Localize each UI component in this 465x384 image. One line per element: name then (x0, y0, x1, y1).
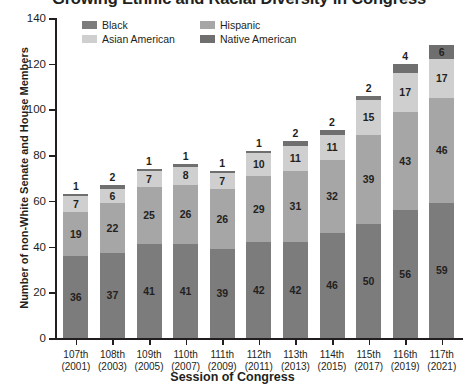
y-tick-mark (49, 201, 55, 203)
bar-stack[interactable]: 262237 (100, 185, 125, 338)
bar-stack[interactable]: 2113142 (283, 141, 308, 338)
bar-segment[interactable]: 32 (320, 160, 345, 233)
bar-segment-value: 2 (292, 128, 298, 139)
bar-segment[interactable]: 39 (210, 249, 235, 338)
y-axis-line (55, 18, 57, 339)
bar-segment[interactable]: 25 (137, 187, 162, 244)
legend-item[interactable]: Native American (200, 33, 318, 45)
bar-segment[interactable]: 46 (320, 233, 345, 338)
bar-segment-value: 25 (143, 210, 155, 221)
y-tick-label: 120 (27, 58, 46, 70)
bar-segment[interactable]: 17 (429, 59, 454, 98)
bar-segment-value: 46 (436, 145, 448, 156)
bar-segment-value: 46 (326, 280, 338, 291)
y-tick-mark (49, 109, 55, 111)
bar-segment[interactable]: 41 (173, 244, 198, 338)
bar-segment-value: 31 (290, 201, 302, 212)
bar-segment[interactable]: 41 (137, 244, 162, 338)
bar-segment-value: 15 (363, 112, 375, 123)
y-tick-mark (49, 64, 55, 66)
bar-segment[interactable]: 56 (393, 210, 418, 338)
bar-segment[interactable]: 42 (283, 242, 308, 338)
bar-segment[interactable]: 10 (246, 153, 271, 176)
x-tick-mark (405, 339, 407, 345)
bar-segment-value: 42 (253, 285, 265, 296)
bar-segment-value: 6 (110, 191, 116, 202)
legend-item[interactable]: Black (82, 19, 200, 31)
bar-segment[interactable]: 42 (246, 242, 271, 338)
y-tick-mark (49, 292, 55, 294)
legend-swatch (82, 35, 97, 43)
bar-segment[interactable]: 11 (320, 135, 345, 160)
bar-segment[interactable]: 26 (173, 185, 198, 244)
bar-stack[interactable]: 6174659 (429, 45, 454, 338)
bar-segment[interactable]: 7 (137, 171, 162, 187)
bar-stack[interactable]: 4174356 (393, 64, 418, 338)
bar-segment-value: 11 (326, 142, 337, 153)
bar-segment[interactable]: 59 (429, 203, 454, 338)
bar-segment-value: 1 (183, 151, 189, 162)
legend-label: Hispanic (220, 19, 260, 31)
bar-segment[interactable]: 8 (173, 167, 198, 185)
bar-stack[interactable]: 172639 (210, 171, 235, 338)
bar-stack[interactable]: 171936 (63, 194, 88, 338)
bar-segment[interactable]: 7 (210, 173, 235, 189)
bar-segment-value: 8 (183, 170, 189, 181)
legend-swatch (200, 35, 215, 43)
bar-segment-value: 19 (70, 229, 82, 240)
bar-segment-value: 4 (402, 51, 408, 62)
bar-segment[interactable]: 17 (393, 73, 418, 112)
bar-segment-value: 39 (216, 288, 228, 299)
bar-segment[interactable]: 29 (246, 176, 271, 242)
bar-segment[interactable]: 37 (100, 253, 125, 338)
bar-segment[interactable]: 11 (283, 146, 308, 171)
bar-segment-value: 1 (146, 156, 152, 167)
bar-stack[interactable]: 172541 (137, 169, 162, 338)
x-axis-title: Session of Congress (0, 370, 465, 384)
bar-segment[interactable]: 39 (356, 135, 381, 224)
bar-stack[interactable]: 182641 (173, 164, 198, 338)
chart-title: Growing Ethnic and Racial Diversity in C… (52, 0, 452, 8)
y-tick-mark (49, 338, 55, 340)
bar-stack[interactable]: 2153950 (356, 96, 381, 338)
y-tick-mark (49, 18, 55, 20)
bar-segment[interactable]: 7 (63, 196, 88, 212)
bar-segment-value: 59 (436, 265, 448, 276)
x-tick-mark (369, 339, 371, 345)
bar-stack[interactable]: 2113246 (320, 130, 345, 338)
y-tick-label: 100 (27, 103, 46, 115)
chart-legend: BlackHispanicAsian AmericanNative Americ… (82, 18, 312, 46)
bar-segment[interactable]: 6 (100, 189, 125, 203)
bar-segment[interactable]: 31 (283, 171, 308, 242)
x-tick-mark (295, 339, 297, 345)
bar-segment-value: 36 (70, 292, 82, 303)
bar-segment[interactable]: 22 (100, 203, 125, 253)
bar-segment[interactable]: 15 (356, 100, 381, 134)
bar-segment-value: 1 (256, 138, 262, 149)
bar-segment[interactable]: 26 (210, 189, 235, 248)
plot-area: 020406080100120140 107th(2001)108th(2003… (55, 18, 463, 338)
bar-segment[interactable]: 19 (63, 212, 88, 255)
bar-segment[interactable]: 36 (63, 256, 88, 338)
legend-item[interactable]: Asian American (82, 33, 200, 45)
bar-segment[interactable]: 46 (429, 98, 454, 203)
legend-label: Black (102, 19, 128, 31)
bar-segment-value: 10 (253, 159, 265, 170)
x-tick-mark (332, 339, 334, 345)
bar-segment[interactable]: 4 (393, 64, 418, 73)
bar-segment-value: 2 (366, 83, 372, 94)
legend-swatch (200, 21, 215, 29)
bar-segment-value: 39 (363, 174, 375, 185)
bar-segment-value: 2 (110, 172, 116, 183)
bar-segment-value: 50 (363, 276, 375, 287)
bar-segment-value: 1 (73, 181, 79, 192)
bar-segment[interactable]: 43 (393, 112, 418, 210)
bar-stack[interactable]: 1102942 (246, 151, 271, 338)
x-tick-label-congress: 117th (415, 349, 465, 361)
bar-segment-value: 56 (399, 269, 411, 280)
bar-segment[interactable]: 6 (429, 45, 454, 59)
legend-item[interactable]: Hispanic (200, 19, 318, 31)
bar-segment-value: 1 (219, 158, 225, 169)
bar-segment[interactable]: 50 (356, 224, 381, 338)
